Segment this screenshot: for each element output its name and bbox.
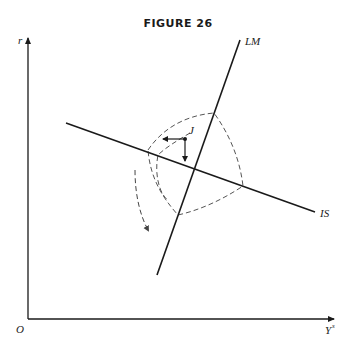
spiral-direction-arrow <box>135 170 148 230</box>
origin-label: O <box>16 323 24 335</box>
lm-curve-label: LM <box>244 35 261 47</box>
y-axis-label: r <box>18 34 23 46</box>
x-axis-superscript: s <box>332 322 335 330</box>
is-curve <box>66 123 315 212</box>
is-curve-label: IS <box>319 207 330 219</box>
lm-curve <box>157 40 240 275</box>
point-j-label: J <box>189 124 195 136</box>
figure-title: FIGURE 26 <box>143 17 212 30</box>
islm-diagram: FIGURE 26 r O Y s IS LM J <box>0 0 357 352</box>
